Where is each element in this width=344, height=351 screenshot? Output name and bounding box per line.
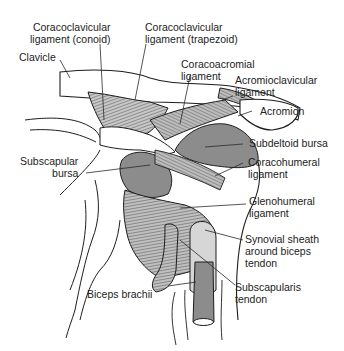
label-line: Synovial sheath xyxy=(245,233,319,245)
biceps-tendon-cut-end xyxy=(194,319,214,326)
label-line: around biceps xyxy=(245,245,319,257)
label-coracoclavicular-trapezoid: Coracoclavicular ligament (trapezoid) xyxy=(145,21,238,45)
label-coracohumeral: Coracohumeral ligament xyxy=(248,156,320,180)
label-subscapular-bursa: Subscapular bursa xyxy=(20,155,78,179)
label-line: Subdeltoid bursa xyxy=(249,137,328,149)
scapula-outline xyxy=(25,118,120,338)
label-biceps-brachii: Biceps brachii xyxy=(87,288,152,300)
label-line: Subscapular xyxy=(20,155,78,167)
label-line: tendon xyxy=(235,293,301,305)
label-line: Coracoacromial xyxy=(181,58,255,70)
label-glenohumeral: Glenohumeral ligament xyxy=(249,195,315,219)
label-subdeltoid-bursa: Subdeltoid bursa xyxy=(249,137,328,149)
label-line: Glenohumeral xyxy=(249,195,315,207)
label-line: Subscapularis xyxy=(235,281,301,293)
label-line: ligament xyxy=(248,168,320,180)
shoulder-anatomy-diagram: Coracoclavicular ligament (conoid) Corac… xyxy=(0,0,344,351)
label-line: Coracoclavicular xyxy=(30,21,111,33)
label-line: Biceps brachii xyxy=(87,288,152,300)
label-line: ligament (conoid) xyxy=(30,33,111,45)
label-acromion: Acromion xyxy=(260,105,304,117)
label-subscapularis-tendon: Subscapularis tendon xyxy=(235,281,301,305)
label-line: Coracohumeral xyxy=(248,156,320,168)
label-acromioclavicular: Acromioclavicular ligament xyxy=(235,74,317,98)
label-line: Coracoclavicular xyxy=(145,21,238,33)
label-line: tendon xyxy=(245,257,319,269)
biceps-tendon-shape xyxy=(193,262,214,325)
label-clavicle: Clavicle xyxy=(19,51,56,63)
label-line: Clavicle xyxy=(19,51,56,63)
label-line: ligament xyxy=(249,207,315,219)
label-synovial-sheath: Synovial sheath around biceps tendon xyxy=(245,233,319,269)
label-coracoclavicular-conoid: Coracoclavicular ligament (conoid) xyxy=(30,21,111,45)
label-line: Acromioclavicular xyxy=(235,74,317,86)
label-line: bursa xyxy=(20,167,78,179)
label-line: ligament (trapezoid) xyxy=(145,33,238,45)
label-line: ligament xyxy=(235,86,317,98)
label-line: Acromion xyxy=(260,105,304,117)
